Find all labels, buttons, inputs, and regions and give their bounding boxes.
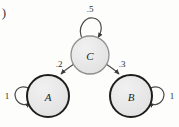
node-label-a: A — [44, 91, 52, 103]
figure-enumerator: ) — [2, 5, 6, 20]
edge-arc-c-a — [61, 64, 74, 74]
edge-c-to-a: .2 — [56, 59, 74, 74]
node-label-c: C — [86, 50, 94, 62]
edge-weight-c-a: .2 — [56, 59, 63, 69]
edge-arc-c-b — [106, 64, 119, 74]
edge-c-to-b: .3 — [106, 59, 126, 74]
node-a[interactable]: A — [27, 75, 69, 117]
edge-weight-c-self: .5 — [87, 4, 94, 14]
state-diagram: ) .5 .2 .3 1 1 C — [0, 0, 179, 127]
node-c[interactable]: C — [71, 36, 109, 74]
edge-weight-a-self: 1 — [5, 91, 10, 101]
node-b[interactable]: B — [110, 75, 152, 117]
figure-container: ) .5 .2 .3 1 1 C — [0, 0, 179, 127]
edge-c-self-loop: .5 — [80, 4, 101, 40]
edge-weight-c-b: .3 — [119, 59, 126, 69]
edge-weight-b-self: 1 — [170, 91, 175, 101]
node-label-b: B — [128, 91, 135, 103]
